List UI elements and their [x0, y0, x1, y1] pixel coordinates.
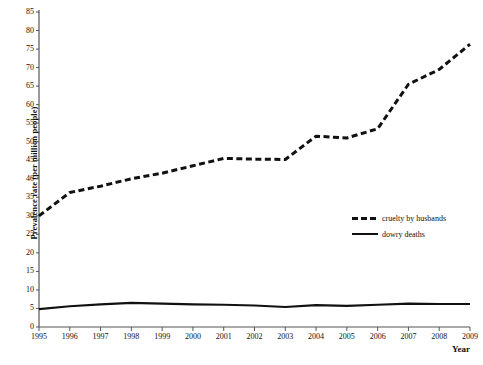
series-line-cruelty-by-husbands [39, 44, 470, 216]
legend-item: dowry deaths [352, 226, 446, 242]
legend-swatch-dashed-icon [352, 217, 378, 220]
chart-legend: cruelty by husbandsdowry deaths [352, 210, 446, 242]
legend-label: dowry deaths [382, 230, 425, 239]
legend-swatch-solid-icon [352, 233, 378, 236]
legend-item: cruelty by husbands [352, 210, 446, 226]
legend-label: cruelty by husbands [382, 214, 446, 223]
series-line-dowry-deaths [39, 303, 470, 309]
